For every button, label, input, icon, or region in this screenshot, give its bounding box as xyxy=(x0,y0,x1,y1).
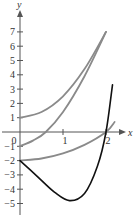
series-group xyxy=(20,32,115,201)
x-tick-label: 1 xyxy=(63,135,68,146)
y-tick-label: 6 xyxy=(10,41,15,52)
chart: y −5−4−3−2−11234567 x 012 xyxy=(0,0,135,217)
y-tick-label: −3 xyxy=(4,169,15,180)
y-tick-label: −5 xyxy=(4,198,15,209)
x-axis-arrow-icon xyxy=(119,129,126,135)
y-axis-arrow-icon xyxy=(17,10,23,17)
y-tick-label: 4 xyxy=(10,69,15,80)
x-tick-label: 0 xyxy=(12,135,17,146)
y-tick-label: 5 xyxy=(10,55,15,66)
y-tick-label: −4 xyxy=(4,184,15,195)
x-axis-label: x xyxy=(127,127,133,138)
x-tick-label: 2 xyxy=(106,135,111,146)
y-axis: y −5−4−3−2−11234567 xyxy=(4,0,23,215)
series-line-0 xyxy=(20,32,106,118)
y-tick-label: 2 xyxy=(10,98,15,109)
y-tick-label: −2 xyxy=(4,155,15,166)
y-axis-label: y xyxy=(16,0,22,10)
y-tick-label: 3 xyxy=(10,84,15,95)
y-tick-label: 1 xyxy=(10,112,15,123)
x-axis: x 012 xyxy=(2,127,133,146)
y-tick-label: 7 xyxy=(10,26,15,37)
